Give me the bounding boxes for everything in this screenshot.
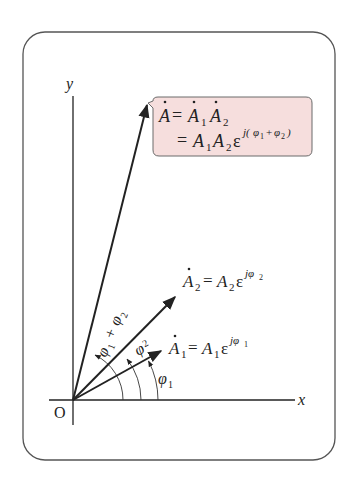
svg-text:1: 1 — [206, 141, 212, 153]
svg-text:2: 2 — [281, 132, 285, 141]
svg-text:A: A — [216, 272, 228, 291]
svg-text:): ) — [286, 126, 291, 139]
svg-text:A: A — [187, 106, 200, 126]
svg-text:A: A — [212, 131, 225, 151]
svg-text:2: 2 — [226, 141, 232, 153]
svg-text:=: = — [188, 338, 198, 357]
svg-text:=: = — [177, 130, 187, 150]
origin-label: O — [54, 404, 66, 421]
svg-text:1: 1 — [214, 348, 220, 360]
svg-text:jφ: jφ — [243, 267, 254, 279]
svg-text:2: 2 — [229, 281, 235, 293]
svg-text:1: 1 — [201, 116, 207, 128]
svg-text:jφ: jφ — [228, 334, 239, 346]
vector-A1 — [73, 351, 161, 400]
svg-text:φ: φ — [158, 370, 167, 388]
svg-text:A: A — [168, 339, 180, 358]
svg-text:+: + — [101, 326, 120, 341]
svg-text:1: 1 — [181, 348, 187, 360]
svg-text:φ: φ — [274, 126, 280, 138]
svg-text:1: 1 — [260, 132, 264, 141]
callout-product: A = A 1 A 2 = A 1 A 2 ε j( φ 1 + φ 2 ) — [148, 97, 312, 156]
svg-text:1: 1 — [168, 379, 173, 390]
svg-text:1: 1 — [244, 340, 248, 349]
svg-text:=: = — [172, 105, 182, 125]
diagram-frame — [23, 32, 335, 460]
svg-text:2: 2 — [259, 273, 263, 282]
svg-text:A: A — [209, 106, 222, 126]
svg-text:j(: j( — [241, 126, 251, 139]
equation-A1: A 1 = A 1 ε jφ 1 — [168, 334, 248, 360]
svg-text:=: = — [203, 271, 213, 290]
equation-A2: A 2 = A 2 ε jφ 2 — [182, 267, 263, 293]
svg-text:A: A — [192, 131, 205, 151]
x-axis-label: x — [297, 391, 305, 408]
svg-text:ε: ε — [233, 131, 241, 151]
y-axis-label: y — [64, 75, 74, 93]
svg-text:ε: ε — [221, 339, 228, 358]
phasor-diagram: x y O φ 1 φ 2 φ 1 + φ 2 A 2 = A 2 ε jφ 2 — [0, 0, 348, 484]
svg-text:+: + — [266, 126, 272, 138]
phi1-label: φ 1 — [158, 370, 173, 390]
svg-text:A: A — [182, 272, 194, 291]
phi-sum-label: φ 1 + φ 2 — [93, 307, 130, 360]
angle-arcs — [95, 355, 158, 400]
phi-sum-arc — [95, 355, 123, 400]
svg-text:A: A — [201, 339, 213, 358]
phi2-label: φ 2 — [131, 336, 153, 359]
svg-text:ε: ε — [236, 272, 243, 291]
svg-text:2: 2 — [195, 281, 201, 293]
svg-text:A: A — [158, 106, 171, 126]
svg-text:2: 2 — [223, 116, 229, 128]
phi1-arc — [149, 361, 159, 400]
svg-text:φ: φ — [253, 126, 259, 138]
